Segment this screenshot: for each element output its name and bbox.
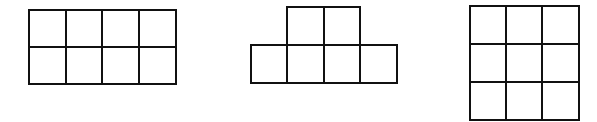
grid-cell xyxy=(506,82,542,120)
grid-cell xyxy=(470,6,506,44)
grid-cell xyxy=(29,10,66,47)
grid-cell xyxy=(506,6,542,44)
grid-cell xyxy=(66,10,102,47)
grid-cell xyxy=(139,47,176,84)
grid-cell xyxy=(102,47,139,84)
grid-cell xyxy=(542,44,579,82)
grid-cell xyxy=(506,44,542,82)
shape-3x3-square xyxy=(470,6,579,120)
grid-cell xyxy=(470,82,506,120)
shapes-group xyxy=(29,6,579,120)
grid-cell xyxy=(324,45,360,83)
grid-cell xyxy=(139,10,176,47)
grid-cell xyxy=(66,47,102,84)
shape-2x4-rectangle xyxy=(29,10,176,84)
shape-t-hexomino xyxy=(251,7,397,83)
grid-cell xyxy=(542,6,579,44)
grid-cell xyxy=(287,45,324,83)
figure-canvas xyxy=(0,0,597,122)
grid-cell xyxy=(29,47,66,84)
grid-cell xyxy=(251,45,287,83)
grid-cell xyxy=(542,82,579,120)
grid-cell xyxy=(287,7,324,45)
grid-cell xyxy=(470,44,506,82)
grid-cell xyxy=(360,45,397,83)
grid-cell xyxy=(324,7,360,45)
grid-cell xyxy=(102,10,139,47)
